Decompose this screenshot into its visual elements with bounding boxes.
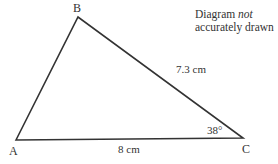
side-label-ac: 8 cm — [118, 143, 140, 155]
note-line-1-text: Diagram — [195, 8, 238, 20]
note-emphasis: not — [238, 8, 253, 20]
not-to-scale-note: Diagram not accurately drawn — [195, 8, 274, 34]
vertex-label-b: B — [73, 1, 81, 15]
note-line-1: Diagram not — [195, 8, 274, 21]
note-line-2: accurately drawn — [195, 21, 274, 34]
vertex-label-a: A — [9, 144, 18, 158]
triangle-diagram: B A C 7.3 cm 8 cm 38° Diagram not accura… — [0, 0, 278, 164]
triangle-abc — [16, 17, 243, 140]
vertex-label-c: C — [242, 142, 250, 156]
side-label-bc: 7.3 cm — [176, 63, 206, 75]
angle-label-c: 38° — [207, 124, 222, 136]
